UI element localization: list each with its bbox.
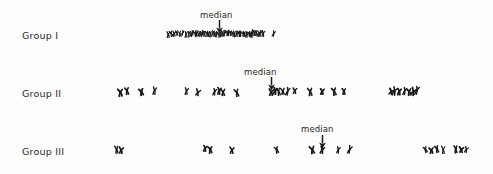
data-mark [206, 146, 214, 154]
data-mark [346, 144, 354, 155]
data-mark [271, 30, 277, 38]
data-mark [433, 144, 441, 154]
data-row-group-1 [0, 26, 493, 42]
data-mark [229, 146, 235, 154]
data-row-group-2 [0, 84, 493, 100]
data-mark [341, 88, 347, 95]
data-mark [284, 86, 292, 96]
data-mark [273, 146, 280, 155]
data-mark [335, 146, 341, 154]
data-row-group-3 [0, 142, 493, 158]
figure-canvas: Group I Group II Group III median median… [0, 0, 493, 174]
data-mark [413, 85, 422, 96]
data-mark [233, 87, 241, 98]
data-mark [123, 87, 130, 96]
data-mark [306, 86, 314, 96]
data-mark [319, 88, 326, 96]
median-label-2: median [244, 67, 276, 77]
data-mark [183, 87, 189, 96]
median-label-3: median [301, 124, 333, 134]
data-mark [260, 30, 266, 38]
data-mark [318, 145, 326, 155]
data-mark [116, 87, 123, 96]
median-label-1: median [200, 10, 232, 20]
data-mark [308, 144, 317, 155]
data-mark [292, 87, 298, 95]
data-mark [152, 86, 158, 96]
data-mark [220, 88, 227, 97]
data-mark [117, 145, 124, 154]
data-mark [441, 145, 446, 154]
data-mark [330, 87, 338, 97]
data-mark [137, 87, 146, 96]
data-mark [194, 87, 202, 97]
